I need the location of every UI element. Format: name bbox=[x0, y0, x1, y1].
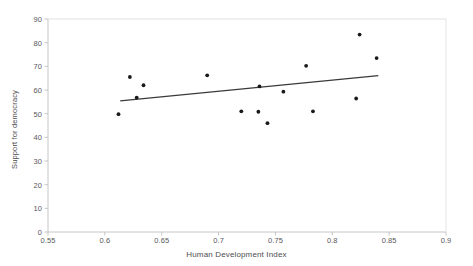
x-tick-label: 0.55 bbox=[41, 236, 56, 245]
y-tick-label: 50 bbox=[20, 109, 42, 118]
data-point bbox=[142, 83, 146, 87]
y-tick-label: 10 bbox=[20, 204, 42, 213]
trendline bbox=[120, 76, 378, 101]
scatter-chart: 0.550.60.650.70.750.80.850.9 01020304050… bbox=[0, 0, 473, 266]
y-tick-label: 0 bbox=[20, 228, 42, 237]
x-tick-label: 0.8 bbox=[327, 236, 338, 245]
y-tick-label: 80 bbox=[20, 38, 42, 47]
data-point bbox=[135, 96, 139, 100]
axis-ticks bbox=[45, 19, 447, 236]
x-tick-label: 0.65 bbox=[154, 236, 169, 245]
data-point bbox=[358, 33, 362, 37]
x-axis-title: Human Development Index bbox=[0, 250, 473, 259]
data-point bbox=[239, 109, 243, 113]
x-tick-label: 0.7 bbox=[213, 236, 224, 245]
y-tick-label: 60 bbox=[20, 86, 42, 95]
y-tick-label: 20 bbox=[20, 180, 42, 189]
axes bbox=[48, 19, 446, 232]
plot-canvas bbox=[0, 0, 473, 266]
data-point bbox=[117, 112, 121, 116]
y-tick-label: 90 bbox=[20, 15, 42, 24]
data-point bbox=[375, 56, 379, 60]
data-point bbox=[354, 97, 358, 101]
x-tick-label: 0.6 bbox=[99, 236, 110, 245]
data-point bbox=[128, 75, 132, 79]
y-tick-label: 30 bbox=[20, 157, 42, 166]
data-point bbox=[258, 85, 262, 89]
data-point bbox=[281, 90, 285, 94]
data-point bbox=[304, 64, 308, 68]
x-tick-label: 0.75 bbox=[268, 236, 283, 245]
data-point bbox=[311, 109, 315, 113]
x-tick-label: 0.85 bbox=[382, 236, 397, 245]
y-axis-title: Support for democracy bbox=[10, 70, 19, 190]
x-tick-label: 0.9 bbox=[441, 236, 452, 245]
y-tick-label: 40 bbox=[20, 133, 42, 142]
data-point bbox=[266, 121, 270, 125]
y-tick-label: 70 bbox=[20, 62, 42, 71]
data-point bbox=[256, 110, 260, 114]
data-point bbox=[205, 73, 209, 77]
